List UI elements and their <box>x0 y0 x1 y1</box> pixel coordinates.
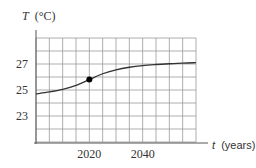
y-axis-title: T (°C) <box>22 9 55 23</box>
x-axis-unit: (years) <box>221 139 255 151</box>
x-tick-labels: 20202040 <box>77 147 154 161</box>
y-axis-var: T <box>22 9 30 23</box>
y-tick-label: 27 <box>16 57 28 71</box>
x-axis-title: t (years) <box>212 139 255 151</box>
x-tick-label: 2040 <box>131 147 155 161</box>
x-tick-label: 2020 <box>77 147 101 161</box>
x-axis-var: t <box>212 139 216 151</box>
y-tick-label: 25 <box>16 83 28 97</box>
highlight-point <box>86 77 92 83</box>
axes <box>34 30 208 144</box>
y-tick-labels: 232527 <box>16 57 28 123</box>
y-tick-label: 23 <box>16 109 28 123</box>
y-axis-unit: (°C) <box>35 9 56 23</box>
temperature-chart: 232527 20202040 T (°C) t (years) <box>0 0 256 168</box>
